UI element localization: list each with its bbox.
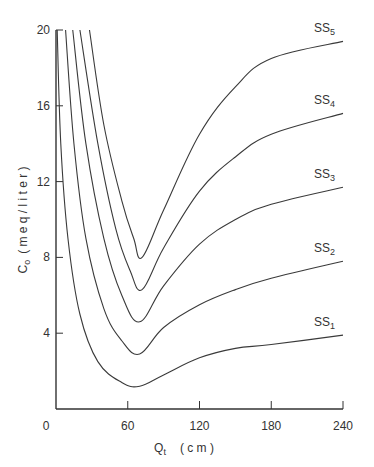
x-tick-label: 60 (121, 419, 135, 433)
series-label-ss2: SS2 (314, 241, 335, 257)
x-axis-title: Qt( c m ) (154, 441, 214, 457)
x-tick-label: 180 (261, 419, 281, 433)
series-label-ss4: SS4 (314, 93, 335, 109)
y-tick-label: 4 (43, 326, 50, 340)
chart: 06012018024048121620 SS5SS4SS3SS2SS1 Qt(… (0, 0, 374, 467)
curve-ss4 (80, 30, 343, 290)
series-label-ss1: SS1 (314, 315, 335, 331)
curve-ss5 (89, 30, 343, 258)
x-tick-label: 0 (43, 419, 50, 433)
series-label-ss3: SS3 (314, 167, 335, 183)
chart-svg: 06012018024048121620 SS5SS4SS3SS2SS1 Qt(… (0, 0, 374, 467)
y-tick-label: 16 (37, 99, 51, 113)
y-axis-title: Co( m e q / l i t e r ) (16, 166, 32, 273)
y-tick-label: 8 (43, 250, 50, 264)
series-label-ss5: SS5 (314, 21, 335, 37)
curves (57, 30, 343, 387)
x-tick-label: 120 (189, 419, 209, 433)
series-labels: SS5SS4SS3SS2SS1 (314, 21, 335, 331)
curve-ss3 (73, 30, 343, 322)
x-tick-label: 240 (333, 419, 353, 433)
y-tick-label: 20 (37, 23, 51, 37)
curve-ss1 (57, 30, 343, 387)
axis-titles: Qt( c m ) Co( m e q / l i t e r ) (16, 166, 214, 457)
y-tick-label: 12 (37, 175, 51, 189)
